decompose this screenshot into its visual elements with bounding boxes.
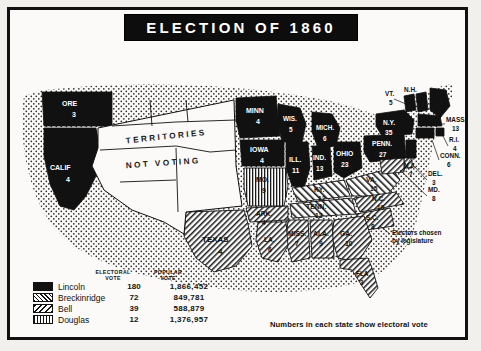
state-new-jersey	[406, 140, 416, 158]
legend-electoral-breckinridge: 72	[114, 293, 154, 302]
legend-electoral-douglas: 12	[114, 315, 154, 324]
legend-header-electoral: ELECTORAL VOTE	[89, 269, 137, 281]
map-page: TERRITORIES NOT VOTING ORE3 CALIF4 MINN4…	[0, 0, 481, 351]
legend-row-douglas: Douglas 12 1,376,957	[33, 314, 248, 325]
legend-candidate-douglas: Douglas	[53, 315, 114, 325]
note-electoral-vote: Numbers in each state show electoral vot…	[270, 320, 428, 329]
legend-electoral-bell: 39	[114, 304, 154, 313]
state-alabama	[310, 220, 334, 258]
legend-popular-lincoln: 1,866,452	[154, 282, 224, 291]
legend-swatch-douglas	[33, 315, 53, 324]
legend-row-bell: Bell 39 588,879	[33, 303, 248, 314]
state-oregon	[42, 92, 112, 126]
legend-popular-douglas: 1,376,957	[154, 315, 224, 324]
page-title: ELECTION OF 1860	[146, 19, 336, 36]
state-rhode-island	[436, 128, 444, 136]
map-title-banner: ELECTION OF 1860	[124, 14, 358, 41]
state-indiana	[312, 146, 332, 180]
legend-row-lincoln: Lincoln 180 1,866,452	[33, 281, 248, 292]
legend-swatch-lincoln	[33, 282, 53, 291]
legend-popular-breckinridge: 849,781	[154, 293, 224, 302]
legend-electoral-lincoln: 180	[114, 282, 154, 291]
state-minnesota	[236, 96, 280, 138]
legend-candidate-bell: Bell	[53, 304, 114, 314]
legend-popular-bell: 588,879	[154, 304, 224, 313]
callout-ri	[443, 136, 448, 146]
legend: ELECTORAL VOTE POPULAR VOTE Lincoln 180 …	[33, 269, 248, 325]
label-ri: R.I.4	[449, 136, 459, 152]
label-conn: CONN.6	[440, 152, 461, 168]
label-del: DEL.3	[428, 170, 443, 186]
label-mass: MASS.13	[446, 116, 466, 132]
legend-candidate-lincoln: Lincoln	[53, 282, 114, 292]
note-sc-line2: by legislature	[392, 237, 476, 245]
state-massachusetts	[418, 114, 442, 126]
note-south-carolina: Electors chosen by legislature	[392, 229, 476, 245]
legend-header-row: ELECTORAL VOTE POPULAR VOTE	[89, 269, 248, 281]
legend-header-popular: POPULAR VOTE	[137, 269, 199, 281]
legend-header-popular-l2: VOTE	[137, 275, 199, 281]
callout-conn	[432, 140, 439, 160]
state-missouri	[244, 168, 288, 206]
legend-swatch-bell	[33, 304, 53, 313]
legend-row-breckinridge: Breckinridge 72 849,781	[33, 292, 248, 303]
legend-candidate-breckinridge: Breckinridge	[53, 293, 114, 303]
douglas-states	[244, 168, 288, 206]
state-connecticut	[416, 128, 434, 138]
label-md: MD.8	[428, 186, 440, 202]
state-new-hampshire	[416, 92, 428, 112]
state-maryland	[380, 158, 404, 174]
label-vt: VT.5	[385, 90, 394, 106]
note-sc-line1: Electors chosen	[392, 229, 476, 237]
legend-swatch-breckinridge	[33, 293, 53, 302]
legend-header-electoral-l2: VOTE	[89, 275, 137, 281]
